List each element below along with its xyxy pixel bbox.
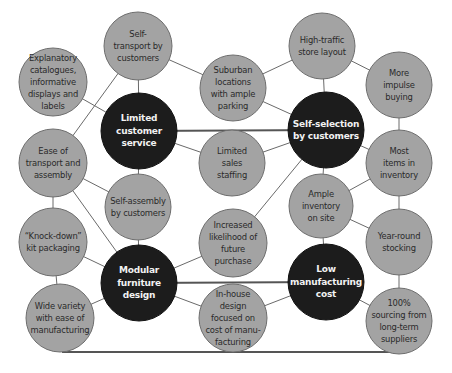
node-low-cost bbox=[288, 244, 364, 320]
node-knock-down bbox=[19, 208, 87, 276]
node-in-house bbox=[199, 284, 267, 352]
nodes-layer bbox=[19, 12, 432, 354]
node-limited-service bbox=[101, 93, 177, 169]
node-most-items bbox=[366, 130, 432, 196]
node-self-selection bbox=[288, 92, 364, 168]
node-explanatory bbox=[19, 48, 87, 116]
activity-system-diagram: Explanatory catalogues, informative disp… bbox=[0, 0, 452, 373]
node-self-assembly bbox=[105, 174, 171, 240]
node-limited-sales bbox=[199, 130, 265, 196]
node-high-traffic bbox=[289, 13, 355, 79]
node-impulse bbox=[366, 52, 432, 118]
node-year-round bbox=[366, 209, 432, 275]
node-increased-likelihood bbox=[199, 209, 267, 277]
node-suburban bbox=[200, 55, 266, 121]
node-self-transport bbox=[104, 12, 172, 80]
diagram-canvas bbox=[0, 0, 452, 373]
node-wide-variety bbox=[26, 284, 94, 352]
node-modular bbox=[101, 245, 177, 321]
node-sourcing bbox=[366, 288, 432, 354]
node-ample-inventory bbox=[289, 174, 353, 238]
node-ease-transport bbox=[19, 129, 87, 197]
